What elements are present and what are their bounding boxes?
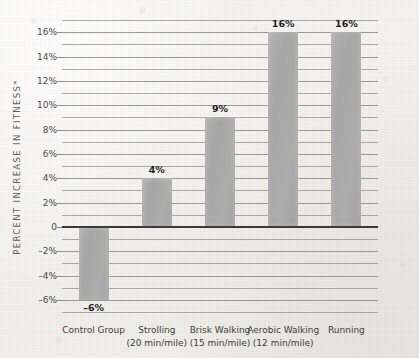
bar [268,32,298,227]
y-axis-tick-label: 0 [11,222,57,232]
y-axis-tick-mark [57,251,62,252]
gridline [62,276,378,277]
y-axis-tick-mark [57,154,62,155]
bar [79,227,109,300]
x-axis-category-label: Running [291,324,401,337]
y-axis-tick-mark [57,57,62,58]
gridline [62,239,378,240]
bar [142,178,172,227]
y-axis-tick-mark [57,81,62,82]
y-axis-tick-label: 14% [11,52,57,62]
category-name: Running [328,325,365,335]
y-axis-tick-mark [57,227,62,228]
gridline [62,288,378,289]
y-axis-tick-mark [57,105,62,106]
gridline [62,263,378,264]
y-axis-tick-mark [57,178,62,179]
y-axis-tick-mark [57,130,62,131]
gridline [62,251,378,252]
bar-value-label: 16% [316,18,376,29]
bar [205,117,235,227]
y-axis-tick-label: –4% [11,271,57,281]
bar-value-label: 4% [127,164,187,175]
y-axis-tick-label: –6% [11,295,57,305]
bar-value-label: 9% [190,103,250,114]
y-axis-tick-label: –2% [11,246,57,256]
y-axis-tick-label: 16% [11,27,57,37]
gridline [62,300,378,301]
figure: PERCENT INCREASE IN FITNESS* –6%4%9%16%1… [0,0,419,358]
y-axis-tick-mark [57,276,62,277]
y-axis-tick-mark [57,32,62,33]
y-axis-tick-label: 2% [11,198,57,208]
y-axis-tick-mark [57,300,62,301]
y-axis-tick-label: 8% [11,125,57,135]
y-axis-tick-mark [57,203,62,204]
plot-area: –6%4%9%16%16%16%14%12%10%8%6%4%2%0–2%–4%… [62,20,378,312]
y-axis-tick-label: 6% [11,149,57,159]
bar-value-label: –6% [64,302,124,313]
category-sublabel: (12 min/mile) [228,337,338,350]
bar [331,32,361,227]
y-axis-tick-label: 10% [11,100,57,110]
y-axis-tick-label: 12% [11,76,57,86]
y-axis-title: PERCENT INCREASE IN FITNESS* [8,22,26,312]
y-axis-tick-label: 4% [11,173,57,183]
bar-value-label: 16% [253,18,313,29]
zero-axis-line [62,226,378,228]
